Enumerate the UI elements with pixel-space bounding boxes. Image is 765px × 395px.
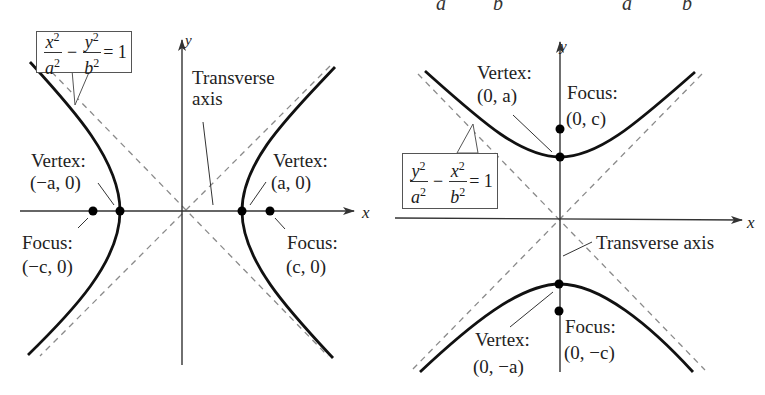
- left-vertex-leader: [98, 183, 114, 205]
- lower-vertex-coords: (0, −a): [473, 356, 524, 377]
- left-eq-equals: = 1: [103, 42, 127, 63]
- left-branch-right: [242, 67, 335, 358]
- transverse-axis-label-line1: Transverse: [192, 67, 275, 88]
- left-eq-den2: b: [84, 58, 93, 78]
- transverse-axis-leader: [203, 122, 213, 205]
- transverse-axis-label-line2: axis: [192, 88, 223, 109]
- left-vertex-point: [116, 207, 125, 216]
- left-diagram: [20, 40, 354, 365]
- left-eq-den1: a: [45, 58, 54, 78]
- left-focus-coords: (−c, 0): [22, 256, 73, 277]
- left-focus-point: [89, 207, 98, 216]
- right-eq-exp: 2: [420, 159, 426, 173]
- right-vertex-coords: (a, 0): [271, 172, 311, 193]
- right-vertex-point: [238, 207, 247, 216]
- right-equation-callout-tail: [457, 124, 478, 153]
- left-eq-exp: 2: [54, 56, 60, 70]
- upper-vertex-point: [556, 153, 565, 162]
- left-branch-left: [28, 62, 120, 355]
- right-eq-frac-1: y2 a2: [409, 156, 428, 207]
- right-eq-num1: y: [412, 161, 420, 181]
- left-vertex-coords: (−a, 0): [30, 172, 81, 193]
- left-eq-minus: −: [67, 42, 77, 63]
- right-branch-lower: [420, 284, 693, 372]
- transverse-axis-label-right: Transverse axis: [596, 232, 714, 253]
- right-focus-coords: (c, 0): [286, 256, 326, 277]
- left-eq-num2: y: [85, 32, 93, 52]
- upper-vertex-title: Vertex:: [477, 62, 532, 83]
- lower-focus-title: Focus:: [565, 316, 616, 337]
- right-eq-num2: x: [451, 161, 459, 181]
- right-y-axis-label: y: [560, 36, 567, 57]
- right-equation-box: y2 a2 − x2 b2 = 1: [402, 153, 498, 209]
- upper-vertex-coords: (0, a): [477, 85, 517, 106]
- upper-focus-coords: (0, c): [566, 108, 606, 129]
- right-x-axis: [395, 218, 742, 220]
- left-y-axis-label: y: [185, 30, 192, 51]
- upper-focus-title: Focus:: [567, 82, 618, 103]
- lower-vertex-point: [555, 280, 564, 289]
- right-eq-exp: 2: [459, 185, 465, 199]
- right-asymptote-1: [418, 74, 705, 370]
- lower-focus-coords: (0, −c): [564, 342, 615, 363]
- left-eq-frac-2: y2 b2: [82, 27, 101, 78]
- right-vertex-title: Vertex:: [273, 150, 328, 171]
- upper-focus-point: [556, 125, 565, 134]
- right-focus-point: [266, 207, 275, 216]
- left-eq-num1: x: [46, 32, 54, 52]
- right-eq-equals: = 1: [469, 171, 493, 192]
- right-eq-den1: a: [411, 187, 420, 207]
- left-eq-exp: 2: [93, 30, 99, 44]
- right-eq-frac-2: x2 b2: [448, 156, 467, 207]
- right-focus-leader: [275, 218, 285, 229]
- left-focus-title: Focus:: [22, 232, 73, 253]
- lower-focus-point: [555, 307, 564, 316]
- left-eq-exp: 2: [93, 56, 99, 70]
- right-asymptote-2: [410, 74, 702, 372]
- right-eq-exp: 2: [420, 185, 426, 199]
- lower-vertex-title: Vertex:: [475, 329, 530, 350]
- left-x-axis-label: x: [362, 202, 370, 223]
- right-eq-minus: −: [433, 171, 443, 192]
- right-eq-exp: 2: [459, 159, 465, 173]
- right-vertex-leader: [250, 182, 266, 205]
- right-eq-den2: b: [450, 187, 459, 207]
- left-eq-exp: 2: [54, 30, 60, 44]
- right-x-axis-label: x: [747, 212, 755, 233]
- left-eq-frac-1: x2 a2: [43, 27, 62, 78]
- left-vertex-title: Vertex:: [31, 150, 86, 171]
- right-focus-title: Focus:: [287, 232, 338, 253]
- left-equation-box: x2 a2 − y2 b2 = 1: [36, 31, 132, 73]
- left-focus-leader: [78, 218, 88, 228]
